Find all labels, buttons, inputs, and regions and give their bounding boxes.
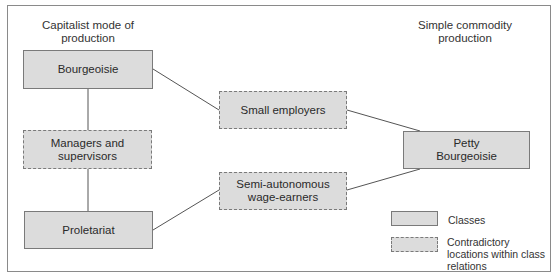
node-label: Proletariat	[62, 224, 114, 237]
node-label: Small employers	[241, 104, 326, 117]
edge-semi-autonomous-petty-bourgeoisie	[347, 169, 420, 190]
node-proletariat: Proletariat	[24, 211, 153, 249]
node-label: Semi-autonomous wage-earners	[233, 178, 333, 204]
node-petty-bourgeoisie: Petty Bourgeoisie	[403, 131, 530, 169]
legend-label-classes: Classes	[448, 214, 485, 226]
edge-small-employers-petty-bourgeoisie	[347, 110, 420, 131]
node-small-employers: Small employers	[219, 91, 347, 129]
node-managers-supervisors: Managers and supervisors	[23, 130, 152, 169]
node-bourgeoisie: Bourgeoisie	[23, 50, 153, 89]
node-label: Managers and supervisors	[43, 137, 133, 163]
legend-swatch-classes	[391, 211, 438, 226]
legend-swatch-contradictory	[391, 237, 438, 252]
edge-bourgeoisie-small-employers	[153, 69, 219, 110]
legend-label-contradictory: Contradictory locations within class rel…	[447, 236, 547, 272]
heading-capitalist-mode: Capitalist mode of production	[38, 19, 138, 45]
node-label: Petty Bourgeoisie	[432, 137, 502, 163]
heading-simple-commodity: Simple commodity production	[415, 19, 515, 45]
edge-proletariat-semi-autonomous	[153, 190, 219, 230]
node-semi-autonomous-wage-earners: Semi-autonomous wage-earners	[219, 172, 347, 210]
node-label: Bourgeoisie	[58, 63, 119, 76]
